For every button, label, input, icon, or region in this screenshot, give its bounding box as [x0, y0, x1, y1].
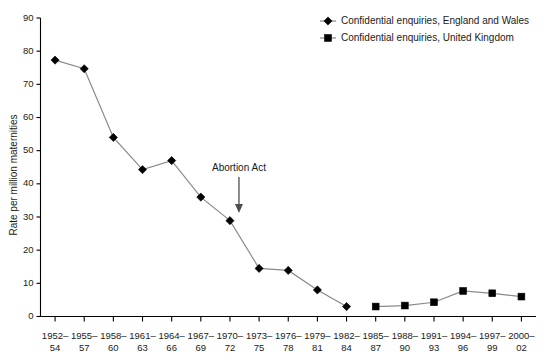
x-tick-label-end: 72 [225, 342, 236, 353]
x-tick-label-start: 1988– [392, 330, 419, 341]
series-1 [51, 56, 351, 311]
y-tick-label: 90 [23, 12, 34, 23]
x-tick-label-start: 1991– [421, 330, 448, 341]
data-point-square [431, 299, 438, 306]
data-series-group [51, 56, 525, 311]
x-tick-label-end: 90 [400, 342, 411, 353]
data-point-square [401, 302, 408, 309]
line-chart: Rate per million maternities 01020304050… [0, 0, 550, 354]
data-point-diamond [255, 264, 263, 272]
x-tick-label-start: 1979– [304, 330, 331, 341]
x-tick-label-start: 1982– [333, 330, 360, 341]
x-tick-label-start: 1973– [246, 330, 273, 341]
y-tick-label: 30 [23, 211, 34, 222]
data-point-square [518, 293, 525, 300]
x-tick-label-end: 78 [283, 342, 294, 353]
x-tick-label-start: 1997– [479, 330, 506, 341]
x-tick-label-start: 1970– [217, 330, 244, 341]
data-point-diamond [313, 286, 321, 294]
x-tick-label-end: 87 [370, 342, 381, 353]
y-tick-label: 60 [23, 111, 34, 122]
y-tick-label: 50 [23, 144, 34, 155]
legend-marker-diamond [324, 17, 332, 25]
x-tick-label-start: 1961– [129, 330, 156, 341]
chart-container: Rate per million maternities 01020304050… [0, 0, 550, 354]
x-tick-label-end: 66 [166, 342, 177, 353]
x-axis-ticks: 1952–541955–571958–601961–631964–661967–… [42, 317, 535, 353]
y-tick-label: 20 [23, 244, 34, 255]
x-tick-label-start: 1985– [362, 330, 389, 341]
x-tick-label-end: 99 [487, 342, 498, 353]
data-point-diamond [51, 56, 59, 64]
annotation-label: Abortion Act [212, 162, 266, 173]
x-tick-label-end: 57 [79, 342, 90, 353]
x-tick-label-end: 60 [108, 342, 119, 353]
x-tick-label-start: 1955– [71, 330, 98, 341]
x-tick-label-end: 96 [458, 342, 469, 353]
annotation-abortion-act: Abortion Act [212, 162, 266, 213]
y-axis-ticks: 0102030405060708090 [23, 12, 41, 322]
legend-item-2[interactable]: Confidential enquiries, United Kingdom [320, 32, 514, 43]
x-tick-label-start: 1958– [100, 330, 127, 341]
legend-marker-square [325, 35, 332, 42]
x-tick-label-start: 2000– [508, 330, 535, 341]
data-point-square [460, 288, 467, 295]
legend-label: Confidential enquiries, England and Wale… [341, 15, 529, 26]
annotation-arrow-head [235, 204, 243, 213]
x-tick-label-start: 1964– [158, 330, 185, 341]
y-tick-label: 40 [23, 177, 34, 188]
x-tick-label-end: 63 [137, 342, 148, 353]
x-tick-label-end: 93 [429, 342, 440, 353]
y-axis-title: Rate per million maternities [8, 114, 19, 235]
data-point-square [372, 303, 379, 310]
x-tick-label-start: 1976– [275, 330, 302, 341]
y-tick-label: 70 [23, 78, 34, 89]
y-tick-label: 10 [23, 277, 34, 288]
x-tick-label-end: 69 [196, 342, 207, 353]
data-point-diamond [342, 302, 350, 310]
x-tick-label-end: 75 [254, 342, 265, 353]
series-line [55, 60, 346, 306]
legend-label: Confidential enquiries, United Kingdom [341, 32, 514, 43]
x-tick-label-start: 1952– [42, 330, 69, 341]
data-point-square [489, 290, 496, 297]
x-tick-label-end: 84 [341, 342, 352, 353]
y-tick-label: 80 [23, 45, 34, 56]
x-tick-label-end: 81 [312, 342, 323, 353]
y-axis-title-text: Rate per million maternities [8, 114, 19, 235]
legend: Confidential enquiries, England and Wale… [320, 15, 529, 43]
x-tick-label-start: 1967– [188, 330, 215, 341]
data-point-diamond [80, 65, 88, 73]
x-tick-label-end: 54 [50, 342, 61, 353]
legend-item-1[interactable]: Confidential enquiries, England and Wale… [320, 15, 529, 26]
series-2 [372, 288, 525, 310]
x-tick-label-start: 1994– [450, 330, 477, 341]
y-tick-label: 0 [28, 310, 33, 321]
data-point-diamond [284, 266, 292, 274]
x-tick-label-end: 02 [516, 342, 527, 353]
series-line [376, 291, 522, 307]
